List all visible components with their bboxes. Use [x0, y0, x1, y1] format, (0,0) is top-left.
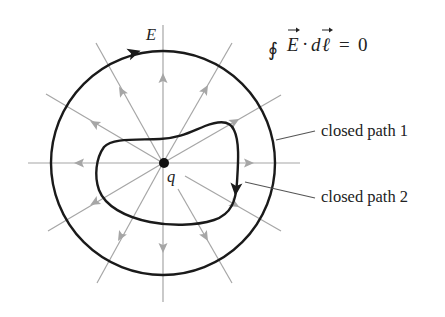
equation-vector-E: E: [286, 34, 299, 55]
line-integral-equation: ∮ E · d ℓ = 0: [268, 28, 368, 62]
leader-line-path-2: [245, 182, 315, 198]
closed-path-2-label: closed path 2: [321, 187, 408, 206]
field-arrow-icon: [88, 196, 101, 209]
field-arrow-icon: [88, 117, 101, 130]
field-label: E: [145, 25, 156, 44]
closed-path-1-label: closed path 1: [321, 121, 408, 140]
vector-arrowhead-E-icon: [296, 28, 300, 33]
electric-field-diagram: E q closed path 1 closed path 2 ∮ E · d …: [0, 0, 445, 317]
field-line-150: [46, 94, 163, 163]
equation-d: d: [311, 34, 321, 55]
field-arrow-icon: [199, 230, 212, 243]
charge-label: q: [167, 167, 175, 186]
equation-equals: =: [339, 34, 350, 55]
field-line-60: [163, 43, 232, 163]
equation-ell: ℓ: [322, 34, 330, 55]
field-arrow-icon: [199, 83, 212, 96]
vector-arrowhead-ell-icon: [329, 28, 333, 33]
field-line-30: [163, 95, 281, 163]
equation-rhs: 0: [358, 34, 368, 55]
leader-line-path-1: [276, 131, 315, 140]
integral-symbol: ∮: [268, 39, 278, 61]
equation-dot: ·: [302, 33, 308, 54]
